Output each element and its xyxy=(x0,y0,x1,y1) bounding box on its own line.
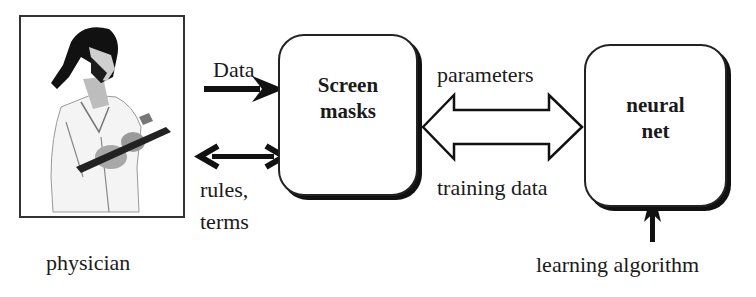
neural-net-title-line2: net xyxy=(586,119,725,144)
data-label: Data xyxy=(213,58,255,82)
neural-net-title-line1: neural xyxy=(586,93,725,118)
training-data-label: training data xyxy=(437,176,548,200)
terms-label: terms xyxy=(200,210,249,234)
screen-masks-title-line1: Screen xyxy=(280,73,416,98)
parameters-training-double-arrow-icon xyxy=(423,95,582,159)
screen-masks-box: Screen masks xyxy=(278,34,418,196)
parameters-label: parameters xyxy=(437,63,534,87)
rules-label: rules, xyxy=(200,178,248,202)
screen-masks-title-line2: masks xyxy=(280,99,416,124)
learning-algorithm-label: learning algorithm xyxy=(536,253,699,277)
neural-net-box: neural net xyxy=(584,44,727,207)
rules-terms-double-arrow-icon xyxy=(200,146,284,167)
